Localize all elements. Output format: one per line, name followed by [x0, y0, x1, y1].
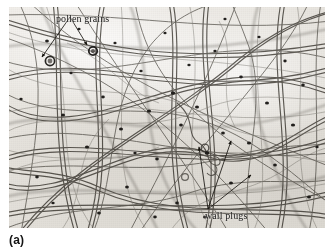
figure-panel: pollen grains wall plugs (a) — [0, 0, 336, 252]
panel-caption: (a) — [9, 233, 24, 247]
film-grain-overlay — [9, 7, 325, 228]
micrograph-image: pollen grains wall plugs — [9, 7, 325, 228]
annotation-label-wall-plugs: wall plugs — [205, 210, 247, 221]
annotation-label-pollen-grains: pollen grains — [56, 13, 109, 24]
